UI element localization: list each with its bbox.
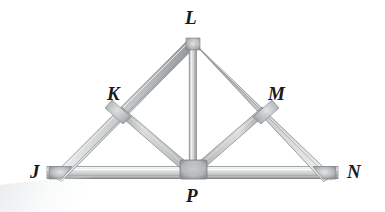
- vertex-label-J: J: [30, 162, 40, 181]
- vertex-label-N: N: [347, 162, 361, 181]
- truss-diagram-canvas: J K L M N P: [0, 0, 385, 212]
- vertex-label-L: L: [185, 8, 197, 27]
- joint-plate-P: [180, 160, 207, 179]
- member-king-post-LP: [189, 42, 196, 173]
- vertex-label-K: K: [107, 84, 120, 103]
- joint-plate-L: [186, 38, 200, 50]
- truss-figure: [0, 0, 385, 212]
- vertex-label-P: P: [186, 186, 198, 205]
- vertex-label-M: M: [268, 84, 285, 103]
